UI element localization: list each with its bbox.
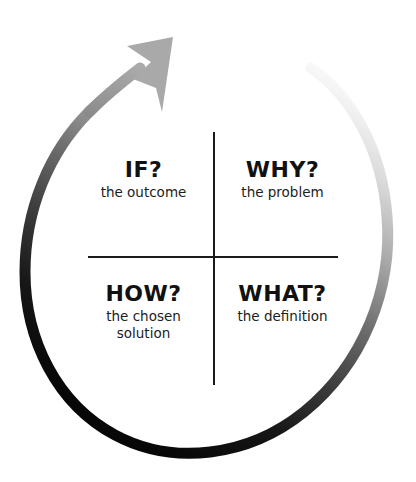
quadrant-if-caption: the outcome: [88, 184, 199, 200]
quadrant-if: IF? the outcome: [88, 158, 213, 201]
quadrant-how-question: HOW?: [88, 282, 199, 305]
horizontal-divider: [88, 256, 338, 258]
quadrant-why: WHY? the problem: [213, 158, 338, 201]
quadrant-how-caption: the chosen solution: [88, 308, 199, 341]
quadrant-what-question: WHAT?: [227, 282, 338, 305]
quadrant-what: WHAT? the definition: [213, 282, 338, 325]
diagram-canvas: IF? the outcome WHY? the problem HOW? th…: [0, 0, 416, 482]
quadrant-why-caption: the problem: [227, 184, 338, 200]
quadrant-what-caption: the definition: [227, 308, 338, 324]
cycle-arrow-tail: [89, 68, 140, 112]
quadrant-how: HOW? the chosen solution: [88, 282, 213, 341]
quadrant-grid: IF? the outcome WHY? the problem HOW? th…: [88, 132, 338, 385]
quadrant-why-question: WHY?: [227, 158, 338, 181]
quadrant-if-question: IF?: [88, 158, 199, 181]
